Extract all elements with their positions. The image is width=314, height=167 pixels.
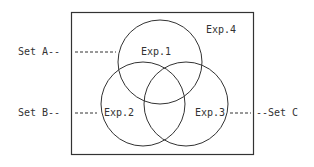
set-c-label: --Set C	[256, 107, 298, 119]
circle-exp2	[101, 62, 185, 146]
venn-diagram	[0, 0, 314, 167]
exp2-label: Exp.2	[104, 107, 134, 119]
exp1-label: Exp.1	[141, 46, 171, 58]
exp3-label: Exp.3	[195, 107, 225, 119]
set-b-label: Set B--	[18, 107, 60, 119]
set-a-label: Set A--	[18, 46, 60, 58]
exp4-label: Exp.4	[206, 24, 236, 36]
